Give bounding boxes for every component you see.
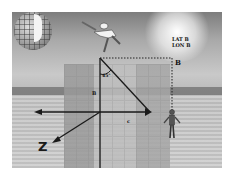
- jumper-icon: [82, 22, 120, 52]
- diagram-frame: 45° LAT B LON B B B c Z: [12, 12, 222, 168]
- point-b-label: B: [175, 60, 181, 66]
- z-axis: [56, 112, 100, 140]
- z-axis-label: Z: [38, 139, 47, 154]
- triangle-hypotenuse: [100, 58, 150, 112]
- right-arrowhead-icon: [145, 108, 152, 116]
- observer-icon: [164, 110, 180, 139]
- lon-label: LON B: [172, 42, 190, 48]
- side-c-label: c: [127, 118, 130, 124]
- side-a-label: B: [92, 90, 96, 96]
- angle-label: 45°: [102, 73, 111, 79]
- left-arrow-icon: [34, 109, 42, 115]
